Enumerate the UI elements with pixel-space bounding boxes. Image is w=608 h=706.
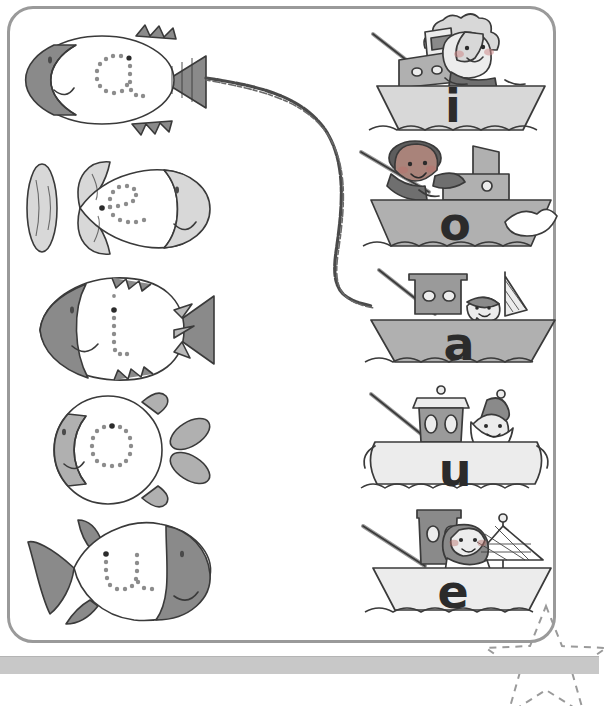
- fish-item-a[interactable]: [14, 20, 274, 145]
- fish-a-art: [14, 20, 274, 145]
- boat-item-a[interactable]: a: [355, 258, 570, 388]
- fish-item-i[interactable]: [14, 268, 274, 393]
- boat-letter-o: o: [439, 197, 471, 251]
- boat-letter-a: a: [443, 317, 474, 371]
- dashed-star-marker: [486, 596, 608, 706]
- boat-letter-e: e: [437, 565, 468, 619]
- fish-o-art: [14, 388, 274, 513]
- fish-item-e[interactable]: [14, 146, 274, 271]
- fish-u-art: [14, 510, 274, 635]
- boat-o-art: o: [355, 134, 570, 264]
- boat-letter-u: u: [439, 443, 472, 497]
- bottom-strip: [0, 656, 599, 674]
- boat-item-i[interactable]: i: [355, 10, 570, 140]
- boat-a-art: a: [355, 258, 570, 388]
- fish-item-u[interactable]: [14, 510, 274, 635]
- fish-i-art: [14, 268, 274, 393]
- boat-item-u[interactable]: u: [355, 380, 570, 510]
- boat-letter-i: i: [445, 79, 461, 133]
- boat-column: i: [355, 6, 570, 643]
- boat-i-art: i: [355, 10, 570, 140]
- fish-e-art: [14, 146, 274, 271]
- boat-item-o[interactable]: o: [355, 134, 570, 264]
- boat-u-art: u: [355, 380, 570, 510]
- fish-column: [14, 6, 274, 643]
- fish-item-o[interactable]: [14, 388, 274, 513]
